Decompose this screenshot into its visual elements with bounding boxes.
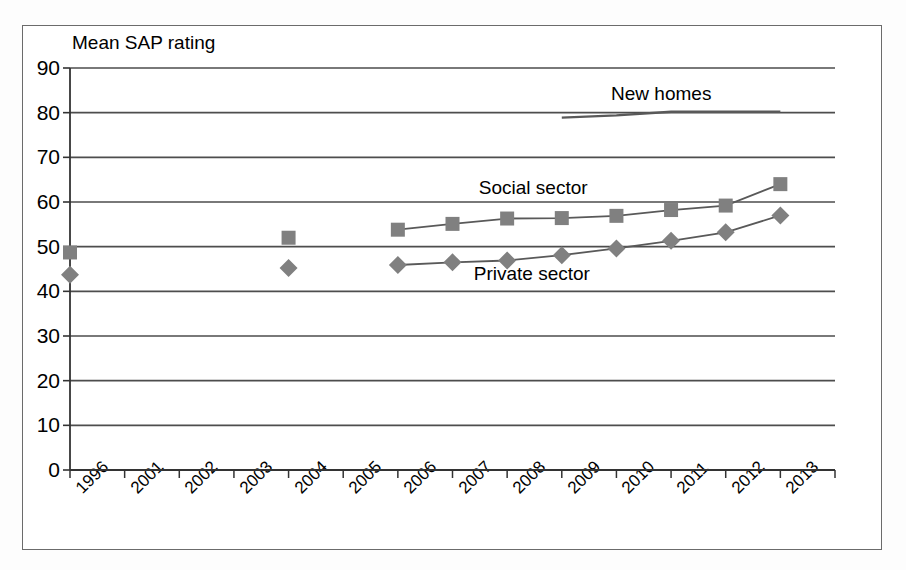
series-private-sector [61, 206, 789, 283]
series-label-social-sector: Social sector [479, 177, 588, 199]
series-label-new-homes: New homes [611, 83, 711, 105]
chart-plot-area: Mean SAP rating 9080706050403020100 1996… [0, 0, 906, 570]
series-label-private-sector: Private sector [474, 263, 590, 285]
chart-page: Mean SAP rating 9080706050403020100 1996… [0, 0, 906, 570]
axis-ticks [70, 470, 835, 478]
chart-canvas [0, 0, 906, 570]
gridlines [63, 68, 835, 470]
